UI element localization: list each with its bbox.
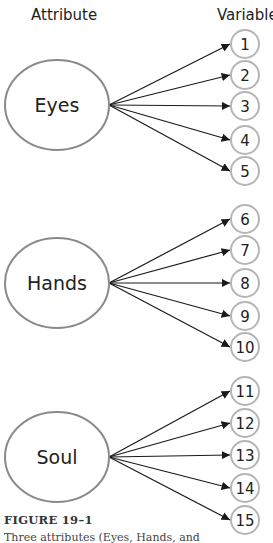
arrow — [109, 44, 230, 105]
variable-label: 5 — [240, 163, 250, 181]
arrow — [109, 283, 230, 316]
arrow — [109, 250, 230, 283]
arrow — [109, 283, 230, 347]
variable-label: 13 — [235, 447, 254, 465]
variable-label: 3 — [240, 98, 250, 116]
arrow — [109, 457, 230, 488]
arrow — [109, 219, 230, 283]
figure-caption-title: FIGURE 19–1 — [4, 513, 93, 527]
variable-label: 2 — [240, 67, 250, 85]
figure-caption-text: Three attributes (Eyes, Hands, and — [4, 531, 200, 543]
arrow — [109, 391, 230, 457]
attribute-group-eyes: Eyes12345 — [5, 30, 259, 185]
variable-label: 12 — [235, 415, 254, 433]
attribute-label: Eyes — [35, 94, 80, 116]
attribute-label: Hands — [27, 272, 87, 294]
arrow — [109, 105, 230, 171]
arrow — [109, 105, 230, 106]
attribute-variable-diagram: Eyes12345Hands678910Soul1112131415 — [0, 0, 273, 543]
arrow — [109, 75, 230, 105]
attribute-label: Soul — [36, 446, 77, 468]
arrow — [109, 457, 230, 520]
arrow — [109, 455, 230, 457]
variable-label: 10 — [235, 339, 254, 357]
arrow — [109, 423, 230, 457]
variable-label: 4 — [240, 132, 250, 150]
variable-label: 15 — [235, 512, 254, 530]
variable-label: 6 — [240, 211, 250, 229]
variable-label: 11 — [235, 383, 254, 401]
attribute-group-soul: Soul1112131415 — [5, 377, 259, 534]
variable-label: 1 — [240, 36, 250, 54]
variable-label: 8 — [240, 275, 250, 293]
attribute-group-hands: Hands678910 — [5, 205, 259, 361]
variable-label: 9 — [240, 308, 250, 326]
variable-label: 7 — [240, 242, 250, 260]
arrow — [109, 105, 230, 140]
variable-label: 14 — [235, 480, 254, 498]
